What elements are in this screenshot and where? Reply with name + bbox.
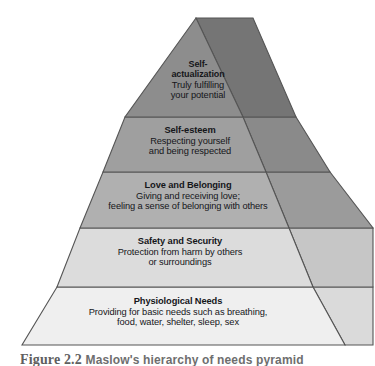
pyramid-tier-physiological (22, 287, 345, 345)
figure-caption: Figure 2.2 Maslow's hierarchy of needs p… (20, 352, 368, 366)
pyramid-tier-love (80, 172, 289, 228)
figure-caption-text: Maslow's hierarchy of needs pyramid (86, 353, 304, 366)
pyramid-tier-self-esteem (103, 117, 266, 172)
figure-caption-number: Figure 2.2 (20, 352, 82, 366)
pyramid-diagram (0, 0, 375, 366)
pyramid-tier-safety (57, 228, 313, 287)
figure-maslow-pyramid: Self-actualization Truly fulfilling your… (0, 0, 375, 366)
